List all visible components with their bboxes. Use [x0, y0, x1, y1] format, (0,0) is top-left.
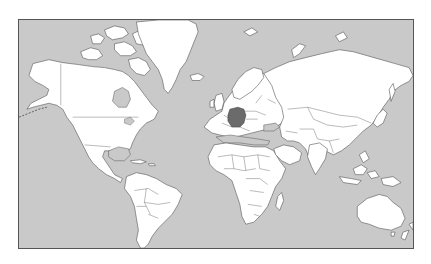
germany-highlighted — [228, 107, 246, 127]
world-map — [18, 19, 414, 249]
tasmania — [391, 232, 395, 236]
map-canvas — [19, 20, 413, 248]
